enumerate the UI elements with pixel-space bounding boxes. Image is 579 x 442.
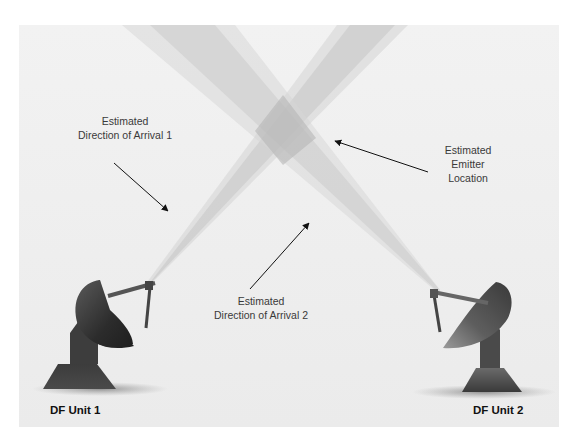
label-doa2: Estimated Direction of Arrival 2 <box>188 294 334 322</box>
label-doa1-line2: Direction of Arrival 1 <box>52 128 198 142</box>
diagram-canvas <box>0 0 579 442</box>
label-doa1: Estimated Direction of Arrival 1 <box>52 114 198 142</box>
unit-label-df-unit-2: DF Unit 2 <box>473 404 523 416</box>
label-emitter-line3: Location <box>428 171 508 185</box>
unit-label-df-unit-1: DF Unit 1 <box>50 404 100 416</box>
label-emitter: Estimated Emitter Location <box>428 143 508 185</box>
diagram-background <box>19 25 559 427</box>
df-triangulation-diagram: Estimated Direction of Arrival 1 Estimat… <box>0 0 579 442</box>
label-doa2-line2: Direction of Arrival 2 <box>188 308 334 322</box>
label-doa1-line1: Estimated <box>52 114 198 128</box>
label-emitter-line1: Estimated <box>428 143 508 157</box>
label-doa2-line1: Estimated <box>188 294 334 308</box>
label-emitter-line2: Emitter <box>428 157 508 171</box>
